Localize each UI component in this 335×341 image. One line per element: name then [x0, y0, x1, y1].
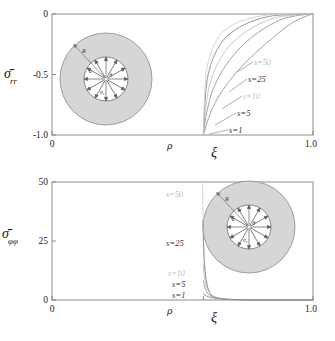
curve-label-bottom-s50: s=50 — [166, 190, 183, 199]
plot-top: 0 -0.5 -1.0 0 ρ 1.0 — [0, 0, 335, 170]
x-tick-label-top-0: 0 — [50, 139, 55, 149]
x-tick-label-top-rho: ρ — [166, 139, 172, 151]
x-axis-label-top: ξ — [211, 145, 217, 161]
curve-label-top-s50: s=50 — [254, 58, 271, 67]
y-tick-label-top-half: -0.5 — [33, 70, 48, 80]
x-axis-label-bottom: ξ — [211, 310, 217, 326]
plot-bottom: 50 25 0 0 ρ 1.0 — [0, 170, 335, 341]
y-tick-label-top-0: 0 — [43, 9, 48, 19]
inset-angle-label-bottom: θ — [253, 220, 256, 226]
inset-diagram-bottom: R a θ σ₀ — [203, 181, 295, 273]
curve-label-top-s10: s=10 — [243, 92, 260, 101]
curve-label-bottom-s5: s=5 — [172, 279, 186, 289]
inset-sigma0-label-top: σ₀ — [100, 89, 105, 95]
curve-label-bottom-s25: s=25 — [166, 238, 184, 248]
inset-diagram-top: R a θ σ₀ — [60, 33, 152, 125]
panel-sigma-rr: σ̄rr ξ 0 -0.5 -1.0 0 ρ — [0, 0, 335, 170]
x-tick-label-top-1: 1.0 — [305, 139, 317, 149]
x-tick-label-bottom-rho: ρ — [166, 304, 172, 316]
x-tick-label-bottom-1: 1.0 — [305, 304, 317, 314]
inset-angle-label-top: θ — [110, 72, 113, 78]
y-tick-label-top-one: -1.0 — [33, 130, 48, 140]
inset-outer-radius-label-top: R — [81, 48, 86, 54]
x-tick-label-bottom-0: 0 — [50, 304, 55, 314]
y-axis-label-bottom: σ̄φφ — [2, 226, 19, 244]
y-tick-label-bottom-0: 0 — [43, 295, 48, 305]
x-axis-label-top-symbol: ξ — [211, 145, 217, 160]
y-tick-label-bottom-50: 50 — [39, 177, 49, 187]
curve-label-bottom-s1: s=1 — [172, 290, 185, 300]
inset-inner-radius-label-bottom: a — [232, 216, 235, 222]
y-axis-label-bottom-subscript: φφ — [8, 236, 18, 246]
y-axis-label-top: σ̄rr — [4, 66, 18, 84]
inset-inner-radius-label-top: a — [89, 68, 92, 74]
curve-label-bottom-s10: s=10 — [168, 269, 185, 278]
x-axis-label-bottom-symbol: ξ — [211, 310, 217, 325]
curve-label-top-s25: s=25 — [248, 74, 266, 84]
curve-label-top-s5: s=5 — [237, 108, 251, 118]
panel-sigma-phiphi: σ̄φφ ξ 50 25 0 0 ρ 1.0 — [0, 170, 335, 341]
inset-outer-radius-label-bottom: R — [224, 196, 229, 202]
curve-label-top-s1: s=1 — [229, 125, 242, 135]
y-axis-label-top-subscript: rr — [10, 76, 17, 86]
y-tick-label-bottom-25: 25 — [39, 236, 49, 246]
inset-sigma0-label-bottom: σ₀ — [243, 237, 248, 243]
figure-container: σ̄rr ξ 0 -0.5 -1.0 0 ρ — [0, 0, 335, 341]
